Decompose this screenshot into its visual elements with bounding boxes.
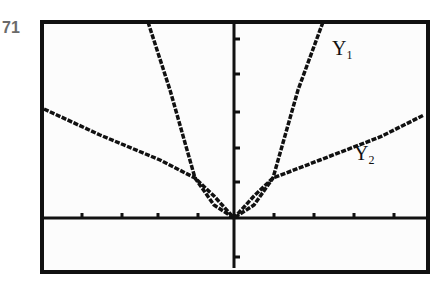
graph: Y1 Y2 xyxy=(0,0,443,285)
